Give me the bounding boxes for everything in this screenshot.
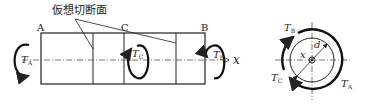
virtual-section-label: 仮想切断面 [52,3,107,17]
torque-a-label: TA [21,54,33,66]
section-tb-label: TB [284,22,296,34]
torsion-diagram: x 仮想切断面 A C B TA TC TB x d [0,0,366,104]
point-c-label: C [121,22,129,33]
axis-x-label: x [233,53,240,67]
section-ta-label: TA [341,78,353,90]
section-tc-label: TC [271,72,283,84]
section-x-label: x [300,49,306,60]
section-d-label: d [314,39,320,50]
point-b-label: B [201,22,208,33]
shaft [41,33,205,84]
point-a-label: A [36,22,45,33]
torque-c-label: TC [132,48,144,60]
